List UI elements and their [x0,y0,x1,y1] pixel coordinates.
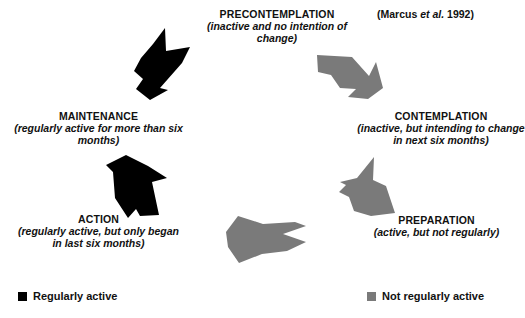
arrow-preparation-to-action [226,216,306,263]
arrow-layer [0,0,525,318]
citation-prefix: (Marcus [377,8,420,20]
stage-title-preparation: PREPARATION [371,214,502,226]
legend-item-regularly-active: Regularly active [18,290,117,302]
stage-desc-action: (regularly active, but only began in las… [17,225,180,249]
arrow-contemplation-to-preparation [339,157,395,216]
stage-desc-maintenance: (regularly active for more than six mont… [11,122,186,146]
stage-title-contemplation: CONTEMPLATION [357,110,525,122]
stage-desc-contemplation: (inactive, but intending to change in ne… [357,122,525,146]
stage-label-contemplation: CONTEMPLATION (inactive, but intending t… [357,110,525,147]
citation-suffix: 1992) [444,8,474,20]
arrow-maintenance-to-precontemplation [134,28,190,100]
stage-label-precontemplation: PRECONTEMPLATION (inactive and no intent… [186,8,368,45]
legend-swatch-gray [367,292,376,301]
citation-italic: et al. [420,8,444,20]
stage-desc-precontemplation: (inactive and no intention of change) [186,20,368,44]
arrow-precontemplation-to-contemplation [317,55,383,99]
stage-label-maintenance: MAINTENANCE (regularly active for more t… [11,110,186,147]
stage-label-action: ACTION (regularly active, but only began… [17,213,180,250]
arrow-action-to-maintenance [106,155,167,218]
legend-label-regularly-active: Regularly active [33,290,117,302]
citation: (Marcus et al. 1992) [377,8,474,20]
stage-title-maintenance: MAINTENANCE [11,110,186,122]
stage-title-precontemplation: PRECONTEMPLATION [186,8,368,20]
stages-of-change-figure: PRECONTEMPLATION (inactive and no intent… [0,0,525,318]
legend-swatch-black [18,292,27,301]
legend-item-not-regularly-active: Not regularly active [367,290,484,302]
stage-desc-preparation: (active, but not regularly) [371,226,502,238]
legend-label-not-regularly-active: Not regularly active [382,290,484,302]
stage-label-preparation: PREPARATION (active, but not regularly) [371,214,502,238]
stage-title-action: ACTION [17,213,180,225]
